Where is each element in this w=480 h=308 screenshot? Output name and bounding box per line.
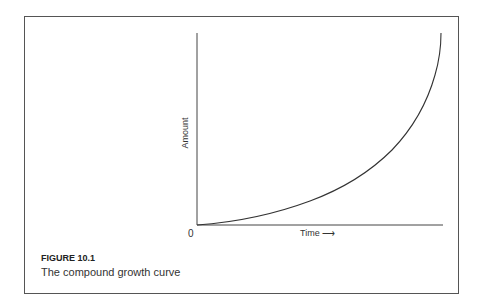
y-axis-label: Amount [180,108,190,158]
figure-caption: The compound growth curve [41,266,180,278]
origin-label: 0 [188,228,194,239]
growth-curve [197,33,441,225]
figure-number: FIGURE 10.1 [41,253,95,263]
x-axis-label: Time ⟶ [300,228,335,238]
